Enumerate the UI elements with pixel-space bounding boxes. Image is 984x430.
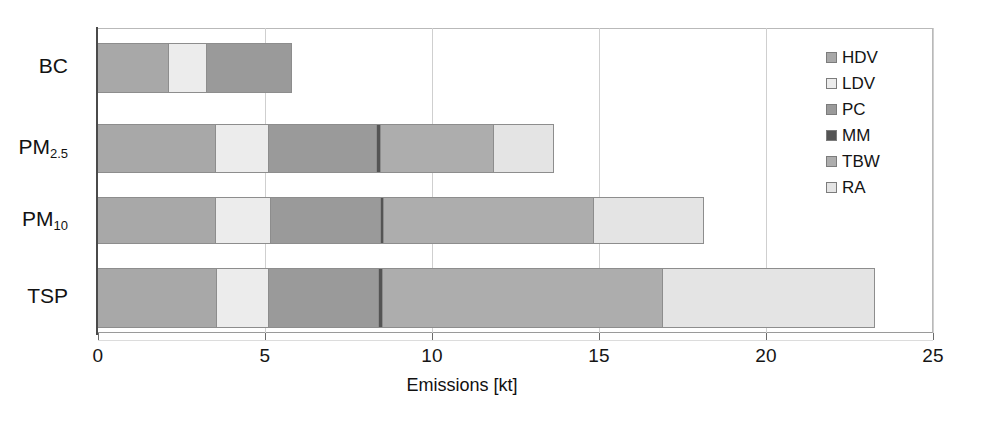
bar-segment-tbw[interactable] bbox=[382, 269, 662, 327]
legend-item-hdv[interactable]: HDV bbox=[826, 44, 880, 70]
bar-segment-ra[interactable] bbox=[593, 198, 703, 243]
x-tick-mark bbox=[599, 333, 600, 340]
x-tick-label: 5 bbox=[260, 345, 271, 367]
x-axis-title: Emissions [kt] bbox=[0, 375, 984, 396]
category-label-tsp: TSP bbox=[27, 284, 68, 308]
x-tick-mark bbox=[432, 333, 433, 340]
bar-row[interactable] bbox=[98, 268, 875, 328]
x-tick-label: 0 bbox=[93, 345, 104, 367]
bar-segment-ldv[interactable] bbox=[215, 125, 268, 172]
bar-row[interactable] bbox=[98, 197, 704, 244]
legend-label: TBW bbox=[842, 153, 880, 170]
bar-segment-pc[interactable] bbox=[268, 125, 376, 172]
legend-item-pc[interactable]: PC bbox=[826, 96, 880, 122]
x-tick-label: 20 bbox=[755, 345, 777, 367]
bar-segment-ra[interactable] bbox=[662, 269, 874, 327]
x-tick-mark bbox=[265, 333, 266, 340]
bar-segment-pc[interactable] bbox=[206, 44, 291, 92]
bar-row[interactable] bbox=[98, 124, 554, 173]
legend-swatch-icon bbox=[826, 182, 837, 193]
bar-segment-hdv[interactable] bbox=[98, 198, 215, 243]
stacked-bar-chart: 0510152025 BCPM2.5PM10TSP Emissions [kt]… bbox=[0, 0, 984, 430]
category-label-pm10: PM10 bbox=[22, 207, 68, 231]
legend-label: HDV bbox=[842, 49, 878, 66]
legend-swatch-icon bbox=[826, 156, 837, 167]
bar-segment-pc[interactable] bbox=[268, 269, 378, 327]
category-label-pm25: PM2.5 bbox=[18, 135, 68, 159]
x-tick-label: 25 bbox=[922, 345, 944, 367]
x-tick-mark bbox=[98, 333, 99, 340]
legend-label: PC bbox=[842, 101, 866, 118]
legend-swatch-icon bbox=[826, 104, 837, 115]
stacked-bar[interactable] bbox=[98, 197, 704, 244]
bar-segment-hdv[interactable] bbox=[98, 44, 168, 92]
bar-segment-hdv[interactable] bbox=[98, 269, 216, 327]
category-label-bc: BC bbox=[39, 54, 68, 78]
x-tick-label: 10 bbox=[421, 345, 443, 367]
bar-segment-ldv[interactable] bbox=[216, 269, 268, 327]
x-tick-mark bbox=[766, 333, 767, 340]
bar-segment-tbw[interactable] bbox=[383, 198, 593, 243]
bar-segment-hdv[interactable] bbox=[98, 125, 215, 172]
bar-segment-pc[interactable] bbox=[270, 198, 380, 243]
legend-swatch-icon bbox=[826, 78, 837, 89]
x-axis-lower-rule bbox=[98, 340, 933, 341]
stacked-bar[interactable] bbox=[98, 43, 292, 93]
stacked-bar[interactable] bbox=[98, 124, 554, 173]
legend-label: LDV bbox=[842, 75, 875, 92]
x-axis-title-text: Emissions [kt] bbox=[406, 375, 517, 395]
legend-item-ldv[interactable]: LDV bbox=[826, 70, 880, 96]
stacked-bar[interactable] bbox=[98, 268, 875, 328]
bar-segment-ldv[interactable] bbox=[168, 44, 206, 92]
bar-segment-tbw[interactable] bbox=[380, 125, 493, 172]
legend-item-mm[interactable]: MM bbox=[826, 122, 880, 148]
bar-segment-ldv[interactable] bbox=[215, 198, 270, 243]
legend-swatch-icon bbox=[826, 130, 837, 141]
bar-row[interactable] bbox=[98, 43, 292, 93]
x-tick-label: 15 bbox=[588, 345, 610, 367]
x-tick-mark bbox=[933, 333, 934, 340]
legend-item-tbw[interactable]: TBW bbox=[826, 148, 880, 174]
legend-swatch-icon bbox=[826, 52, 837, 63]
bar-segment-ra[interactable] bbox=[493, 125, 553, 172]
gridline bbox=[933, 28, 934, 333]
legend: HDVLDVPCMMTBWRA bbox=[826, 44, 880, 200]
legend-item-ra[interactable]: RA bbox=[826, 174, 880, 200]
legend-label: RA bbox=[842, 179, 866, 196]
legend-label: MM bbox=[842, 127, 870, 144]
